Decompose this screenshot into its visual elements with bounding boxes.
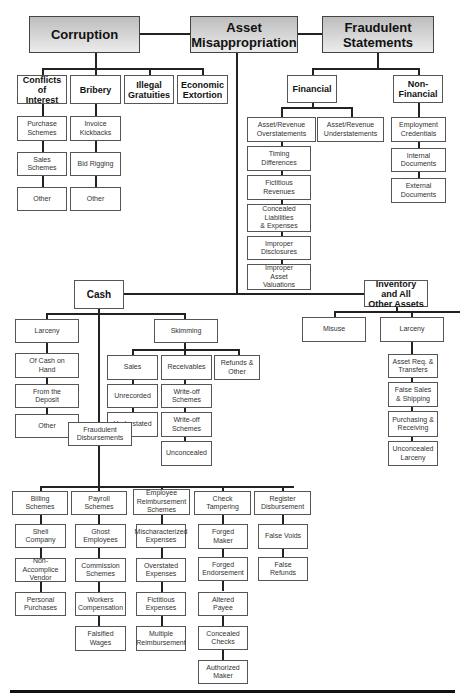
bottom-rule	[10, 690, 455, 693]
connector	[411, 342, 413, 354]
node-personal-purchases: Personal Purchases	[15, 592, 66, 616]
node-of-cash-on-hand: Of Cash on Hand	[15, 353, 79, 378]
connector	[98, 446, 100, 488]
node-unrecorded: Unrecorded	[107, 384, 158, 408]
node-improper-asset-valuations: Improper Asset Valuations	[247, 264, 311, 290]
node-receivables: Receivables	[161, 355, 212, 380]
connector	[46, 313, 186, 315]
node-corruption-other-2: Other	[70, 187, 121, 211]
connector	[124, 293, 364, 295]
node-corruption-other-1: Other	[17, 187, 67, 211]
connector	[334, 311, 460, 313]
connector	[282, 515, 284, 524]
connector	[281, 107, 353, 109]
node-mischaracterized-expenses: Mischaracterized Expenses	[136, 524, 186, 548]
connector	[98, 616, 100, 626]
connector	[282, 549, 284, 557]
node-fraudulent-disbursements: Fraudulent Disbursements	[68, 422, 132, 446]
connector	[236, 53, 238, 294]
node-authorized-maker: Authorized Maker	[198, 660, 248, 684]
node-skimming-sales: Sales	[107, 355, 158, 380]
node-sales-schemes: Sales Schemes	[17, 152, 67, 176]
connector	[222, 515, 224, 524]
node-non-accomplice-vendor: Non-Accomplice Vendor	[15, 558, 66, 582]
node-employment-credentials: Employment Credentials	[391, 117, 446, 142]
node-register-disbursement: Register Disbursement	[254, 491, 311, 515]
connector	[42, 104, 44, 116]
connector	[312, 68, 420, 70]
node-falsified-wages: Falsified Wages	[75, 626, 126, 651]
node-external-documents: External Documents	[391, 178, 446, 203]
connector	[281, 107, 283, 117]
node-employee-reimbursement-schemes: Employee Reimbursement Schemes	[133, 489, 190, 515]
connector	[222, 549, 224, 557]
connector	[132, 349, 240, 351]
node-billing-schemes: Billing Schemes	[12, 491, 68, 515]
connector	[161, 616, 163, 626]
connector	[40, 582, 42, 592]
node-misuse: Misuse	[302, 317, 366, 342]
node-non-financial: Non- Financial	[393, 75, 443, 103]
node-corruption: Corruption	[29, 16, 140, 53]
node-false-voids: False Voids	[258, 524, 308, 549]
node-fraudulent-statements: Fraudulent Statements	[322, 16, 434, 53]
node-purchase-schemes: Purchase Schemes	[17, 116, 67, 141]
node-improper-disclosures: Improper Disclosures	[247, 236, 311, 260]
node-inventory-larceny: Larceny	[380, 317, 444, 342]
node-false-sales-shipping: False Sales & Shipping	[388, 382, 438, 407]
node-fictitious-revenues: Fictitious Revenues	[247, 175, 311, 200]
node-bid-rigging: Bid Rigging	[70, 152, 121, 176]
node-workers-compensation: Workers Compensation	[75, 592, 126, 616]
connector	[98, 582, 100, 592]
node-payroll-schemes: Payroll Schemes	[71, 491, 127, 515]
node-skimming: Skimming	[154, 319, 218, 343]
connector	[42, 175, 44, 187]
node-refunds-other: Refunds & Other	[214, 355, 260, 380]
connector	[222, 581, 224, 591]
connector	[98, 309, 100, 423]
connector	[140, 33, 190, 35]
node-unconcealed-larceny: Unconcealed Larceny	[388, 441, 438, 466]
node-from-the-deposit: From the Deposit	[15, 384, 79, 408]
node-financial: Financial	[287, 75, 337, 103]
connector	[95, 104, 97, 116]
node-asset-req-transfers: Asset Req. & Transfers	[388, 354, 438, 378]
node-economic-extortion: Economic Extortion	[177, 75, 228, 104]
connector	[95, 175, 97, 187]
connector	[161, 582, 163, 592]
node-commission-schemes: Commission Schemes	[75, 558, 126, 582]
connector	[40, 515, 42, 524]
connector	[222, 616, 224, 626]
node-conflicts-of-interest: Conflicts of Interest	[17, 75, 67, 104]
node-internal-documents: Internal Documents	[391, 148, 446, 172]
node-cash-larceny: Larceny	[15, 319, 79, 343]
connector	[222, 650, 224, 660]
node-ghost-employees: Ghost Employees	[75, 524, 126, 548]
connector	[161, 515, 163, 524]
node-fictitious-expenses: Fictitious Expenses	[136, 592, 186, 616]
node-asset-misappropriation: Asset Misappropriation	[190, 16, 298, 53]
node-shell-company: Shell Company	[15, 524, 66, 548]
node-overstated-expenses: Overstated Expenses	[136, 558, 186, 582]
node-write-off-schemes-1: Write-off Schemes	[161, 384, 212, 408]
connector	[98, 548, 100, 558]
node-concealed-liabilities: Concealed Liabilities & Expenses	[247, 204, 311, 232]
node-asset-revenue-overstatements: Asset/Revenue Overstatements	[247, 117, 316, 142]
node-asset-revenue-understatements: Asset/Revenue Understatements	[317, 117, 384, 142]
node-check-tampering: Check Tampering	[194, 491, 251, 515]
connector	[298, 33, 322, 35]
node-altered-payee: Altered Payee	[198, 592, 248, 616]
node-bribery: Bribery	[70, 75, 121, 104]
node-concealed-checks: Concealed Checks	[198, 626, 248, 650]
node-false-refunds: False Refunds	[258, 557, 308, 581]
node-timing-differences: Timing Differences	[247, 146, 311, 171]
node-illegal-gratuities: Illegal Gratuities	[124, 75, 174, 104]
connector	[351, 107, 353, 117]
node-multiple-reimbursement: Multiple Reimbursement	[136, 626, 186, 651]
connector	[46, 343, 48, 353]
node-cash: Cash	[74, 280, 124, 309]
node-unconcealed: Unconcealed	[161, 441, 212, 466]
node-forged-maker: Forged Maker	[198, 524, 248, 549]
node-forged-endorsement: Forged Endorsement	[198, 557, 248, 581]
